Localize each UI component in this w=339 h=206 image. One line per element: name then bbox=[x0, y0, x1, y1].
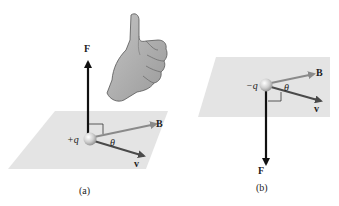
force-label-b: F bbox=[258, 165, 264, 176]
velocity-label-a: v bbox=[134, 158, 139, 169]
field-label-a: B bbox=[156, 118, 163, 129]
charge-label-b: −q bbox=[246, 80, 258, 91]
field-label-b: B bbox=[316, 67, 323, 78]
angle-label-b: θ bbox=[284, 82, 289, 93]
panel-a: F B v θ +q (a) bbox=[8, 14, 168, 197]
caption-a: (a) bbox=[79, 185, 90, 197]
force-label-a: F bbox=[84, 43, 90, 54]
caption-b: (b) bbox=[256, 182, 268, 194]
lorentz-force-diagram: F B v θ +q (a) B v θ F −q (b bbox=[0, 0, 339, 206]
charge-label-a: +q bbox=[67, 134, 79, 145]
angle-label-a: θ bbox=[110, 137, 115, 148]
charge-sphere-a bbox=[84, 133, 97, 146]
thumbs-up-hand-icon bbox=[107, 14, 167, 101]
velocity-label-b: v bbox=[314, 103, 319, 114]
charge-sphere-b bbox=[260, 79, 273, 92]
panel-b: B v θ F −q (b) bbox=[198, 57, 330, 194]
